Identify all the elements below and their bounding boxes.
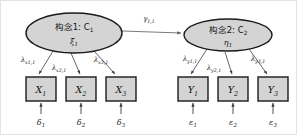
lambda-x3-label: λx3,1 (93, 56, 109, 65)
error-delta-1: δ1 (37, 103, 45, 128)
diagram-canvas: γ1,1 λx1,1 λx2,1 λx3,1 λy1,1 (1, 1, 297, 135)
gamma-path-label: γ1,1 (143, 15, 155, 24)
error-delta-2: δ2 (77, 103, 86, 128)
lambda-x2-arrow (71, 53, 80, 74)
indicator-x1: X1 (26, 77, 56, 101)
error-epsilon-3: ε3 (269, 103, 277, 128)
lambda-x1-label: λx1,1 (20, 56, 36, 65)
gamma-path-arrow (122, 31, 181, 33)
lambda-y2-label: λy2,1 (206, 64, 222, 74)
epsilon-3-label: ε3 (269, 118, 277, 128)
lambda-x2-label: λx2,1 (51, 64, 67, 73)
construct-2-label: 构念2: C2 (209, 25, 248, 36)
construct-1-label: 构念1: C1 (55, 22, 94, 33)
loading-paths-x-group: λx1,1 λx2,1 λx3,1 (20, 51, 115, 74)
structural-path-group: γ1,1 (122, 15, 181, 33)
indicator-y3: Y3 (258, 77, 288, 101)
lambda-y2-arrow (225, 52, 232, 74)
indicator-x3: X3 (106, 77, 136, 101)
delta-3-label: δ3 (117, 118, 126, 128)
epsilon-1-label: ε1 (189, 118, 197, 128)
loading-paths-y-group: λy1,1 λy2,1 λy3,1 (182, 49, 267, 74)
latent-variable-construct-1: 构念1: C1 ξ1 (26, 13, 122, 53)
delta-2-label: δ2 (77, 118, 86, 128)
latent-variable-construct-2: 构念2: C2 η1 (184, 19, 272, 51)
lambda-y1-label: λy1,1 (182, 55, 198, 65)
sem-path-diagram: γ1,1 λx1,1 λx2,1 λx3,1 λy1,1 (0, 0, 297, 135)
error-epsilon-2: ε2 (229, 103, 237, 128)
delta-1-label: δ1 (37, 118, 45, 128)
indicator-y2: Y2 (218, 77, 248, 101)
error-delta-3: δ3 (117, 103, 126, 128)
lambda-y3-label: λy3,1 (250, 55, 266, 65)
indicator-x2: X2 (66, 77, 96, 101)
epsilon-2-label: ε2 (229, 118, 237, 128)
error-epsilon-1: ε1 (189, 103, 197, 128)
indicator-y1: Y1 (178, 77, 208, 101)
